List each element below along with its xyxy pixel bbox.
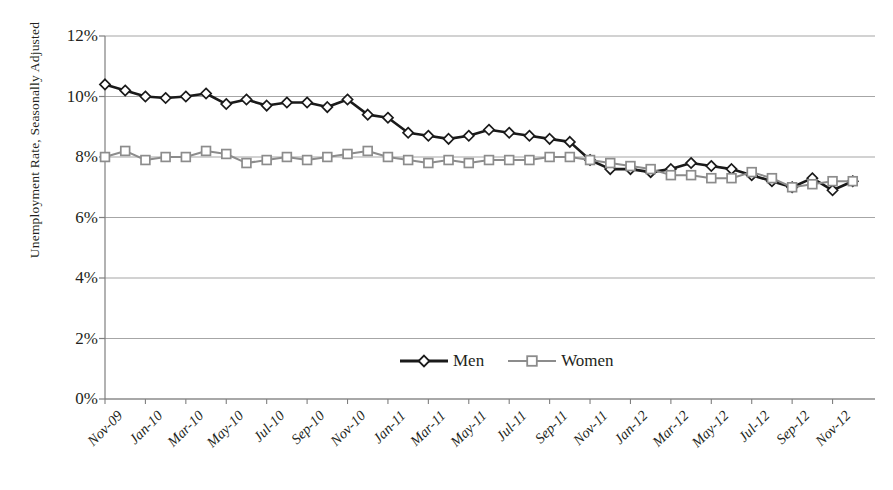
legend-marker: [527, 356, 537, 366]
data-point-marker: [242, 159, 251, 168]
data-point-marker: [565, 153, 574, 162]
data-point-marker: [464, 159, 473, 168]
data-point-marker: [343, 150, 352, 159]
data-point-marker: [485, 156, 494, 165]
data-point-marker: [828, 177, 837, 186]
data-point-marker: [101, 153, 110, 162]
data-point-marker: [443, 134, 453, 144]
data-point-marker: [788, 183, 797, 192]
data-point-marker: [706, 161, 716, 171]
legend-label: Women: [561, 352, 613, 370]
data-point-marker: [747, 168, 756, 177]
unemployment-rate-line-chart: Unemployment Rate, Seasonally Adjusted 1…: [0, 0, 893, 490]
series-women: [101, 147, 858, 192]
data-point-marker: [282, 153, 291, 162]
data-point-marker: [141, 156, 150, 165]
diamond-marker-icon: [398, 352, 450, 370]
data-point-marker: [322, 102, 332, 112]
data-point-marker: [727, 174, 736, 183]
data-point-marker: [282, 97, 292, 107]
data-point-marker: [808, 180, 817, 189]
data-point-marker: [404, 156, 413, 165]
data-point-marker: [848, 177, 857, 186]
data-point-marker: [384, 153, 393, 162]
legend-entry-women: Women: [506, 352, 613, 370]
data-point-marker: [505, 156, 514, 165]
gridlines: [105, 36, 875, 399]
data-point-marker: [161, 153, 170, 162]
chart-legend: MenWomen: [398, 352, 614, 370]
data-point-marker: [423, 131, 433, 141]
legend-entry-men: Men: [398, 352, 484, 370]
data-point-marker: [161, 93, 171, 103]
data-point-marker: [484, 125, 494, 135]
data-point-marker: [726, 164, 736, 174]
axis-lines: [99, 36, 875, 404]
data-point-marker: [525, 156, 534, 165]
data-point-marker: [666, 171, 675, 180]
data-point-marker: [262, 100, 272, 110]
data-point-marker: [121, 147, 130, 156]
data-point-marker: [545, 134, 555, 144]
legend-label: Men: [453, 352, 484, 370]
data-point-marker: [202, 147, 211, 156]
data-point-marker: [221, 99, 231, 109]
data-point-marker: [586, 156, 595, 165]
data-point-marker: [181, 153, 190, 162]
data-point-marker: [504, 128, 514, 138]
data-point-marker: [222, 150, 231, 159]
data-point-marker: [100, 79, 110, 89]
data-point-marker: [524, 131, 534, 141]
data-point-marker: [303, 156, 312, 165]
data-point-marker: [606, 159, 615, 168]
data-point-marker: [181, 91, 191, 101]
data-point-marker: [707, 174, 716, 183]
data-point-marker: [262, 156, 271, 165]
plot-area: [0, 0, 893, 490]
data-point-marker: [302, 97, 312, 107]
data-point-marker: [687, 171, 696, 180]
data-point-marker: [686, 158, 696, 168]
data-point-marker: [424, 159, 433, 168]
data-point-marker: [120, 85, 130, 95]
data-point-marker: [363, 147, 372, 156]
data-point-marker: [201, 88, 211, 98]
data-point-marker: [768, 174, 777, 183]
data-point-marker: [545, 153, 554, 162]
data-point-marker: [646, 165, 655, 174]
data-point-marker: [323, 153, 332, 162]
series-line-men: [105, 84, 853, 190]
data-point-marker: [444, 156, 453, 165]
legend-marker: [419, 356, 430, 367]
data-point-marker: [626, 162, 635, 171]
series-line-women: [105, 151, 853, 187]
square-marker-icon: [506, 352, 558, 370]
data-point-marker: [464, 131, 474, 141]
data-point-marker: [140, 91, 150, 101]
